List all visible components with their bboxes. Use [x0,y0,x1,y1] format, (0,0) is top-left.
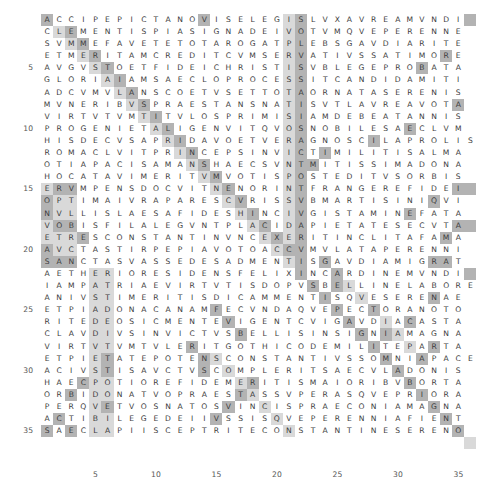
letter-cell: E [392,341,404,353]
letter-cell: E [392,268,404,280]
letter-cell: L [259,268,271,280]
letter-cell: I [126,425,138,437]
letter-cell: D [368,316,380,328]
letter-cell: E [53,401,65,413]
letter-cell: S [126,328,138,340]
letter-cell: E [210,377,222,389]
letter-cell: A [307,50,319,62]
letter-cell: O [428,304,440,316]
letter-cell: O [114,62,126,74]
letter-cell: I [452,14,464,26]
letter-cell: S [259,413,271,425]
letter-cell: E [319,341,331,353]
letter-cell: S [295,123,307,135]
letter-cell: E [174,256,186,268]
letter-cell: V [210,135,222,147]
letter-cell: E [319,304,331,316]
letter-cell: D [368,74,380,86]
letter-cell [464,377,476,389]
letter-cell: I [416,413,428,425]
letter-cell: I [271,220,283,232]
letter-cell: V [174,111,186,123]
letter-cell: E [331,220,343,232]
letter-cell: A [77,147,89,159]
letter-cell: R [428,256,440,268]
letter-cell: I [174,268,186,280]
letter-cell: I [174,135,186,147]
letter-cell: S [368,50,380,62]
letter-cell: E [380,14,392,26]
letter-cell: A [138,365,150,377]
letter-cell [428,437,440,449]
letter-cell: S [198,159,210,171]
letter-cell: A [368,244,380,256]
letter-cell: N [440,26,452,38]
letter-cell: L [114,87,126,99]
letter-cell: O [440,280,452,292]
letter-cell: L [428,123,440,135]
letter-cell: G [319,256,331,268]
letter-cell: N [101,123,113,135]
letter-grid: ACCIPEPICTANOVISELEGISLVXAVREAMVNDI CLEM… [41,14,476,449]
letter-cell: I [319,208,331,220]
letter-cell: N [428,365,440,377]
letter-cell: E [41,304,53,316]
letter-cell: T [235,425,247,437]
letter-cell: I [101,413,113,425]
letter-cell: G [428,328,440,340]
letter-cell: N [235,99,247,111]
letter-cell: E [210,208,222,220]
letter-cell: T [138,111,150,123]
letter-cell: A [331,256,343,268]
letter-cell: T [101,111,113,123]
letter-cell [464,365,476,377]
letter-cell: E [259,14,271,26]
letter-cell: B [65,389,77,401]
letter-cell: C [295,147,307,159]
letter-cell: S [283,195,295,207]
letter-cell: P [222,220,234,232]
letter-cell: I [295,268,307,280]
letter-cell: V [77,365,89,377]
letter-cell: A [428,208,440,220]
letter-cell: S [295,74,307,86]
letter-cell: I [380,74,392,86]
letter-cell: E [235,135,247,147]
letter-cell: I [319,220,331,232]
letter-cell: E [174,316,186,328]
letter-cell: A [331,365,343,377]
letter-cell: E [235,377,247,389]
letter-cell: I [198,232,210,244]
letter-cell: S [222,14,234,26]
letter-cell: M [416,74,428,86]
letter-grid-row: SANCTASVASSEDESADMENTISGAVDIAMIGRAT [41,256,476,268]
letter-cell: N [331,87,343,99]
letter-cell: P [174,389,186,401]
letter-cell: T [101,62,113,74]
letter-cell: I [283,208,295,220]
letter-cell: F [210,304,222,316]
letter-cell: A [89,304,101,316]
letter-cell: R [343,268,355,280]
letter-cell: H [222,62,234,74]
letter-cell [41,437,53,449]
letter-cell: O [331,135,343,147]
letter-cell: E [392,183,404,195]
letter-cell: M [162,316,174,328]
letter-cell: V [114,111,126,123]
letter-cell [380,437,392,449]
letter-cell: D [235,256,247,268]
x-axis-tick-label: 10 [146,470,166,479]
letter-cell: N [247,353,259,365]
letter-cell: S [343,389,355,401]
letter-cell: O [247,244,259,256]
letter-cell: D [186,135,198,147]
letter-cell: L [162,123,174,135]
letter-cell: I [126,26,138,38]
letter-cell: I [428,38,440,50]
letter-cell: T [319,232,331,244]
letter-cell: B [380,377,392,389]
letter-cell: L [271,328,283,340]
letter-cell: P [150,26,162,38]
letter-cell: E [392,99,404,111]
